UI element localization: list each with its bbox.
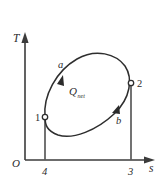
state-point-1-label: 1 (35, 112, 40, 123)
entropy-axis-label: s (149, 162, 154, 174)
net-heat-symbol: Q (69, 85, 77, 97)
entropy-tick-label-3: 3 (127, 166, 133, 177)
process-b-direction-arrow (112, 105, 120, 114)
net-heat-annotation: Q net (69, 85, 85, 99)
process-a-label: a (58, 59, 63, 70)
temperature-axis (21, 32, 28, 160)
state-point-1-marker (42, 114, 47, 119)
origin-label: O (12, 157, 20, 169)
state-point-2-marker (128, 80, 133, 85)
ts-diagram-canvas: T s O 4 3 1 2 a b Q net (0, 0, 163, 184)
ts-diagram-figure: T s O 4 3 1 2 a b Q net (0, 0, 163, 184)
temperature-axis-label: T (13, 32, 21, 44)
net-heat-subscript: net (78, 93, 86, 99)
process-b-label: b (116, 115, 121, 126)
entropy-tick-label-4: 4 (42, 166, 48, 177)
temperature-axis-arrowhead (21, 32, 28, 43)
state-point-2-label: 2 (137, 78, 142, 89)
